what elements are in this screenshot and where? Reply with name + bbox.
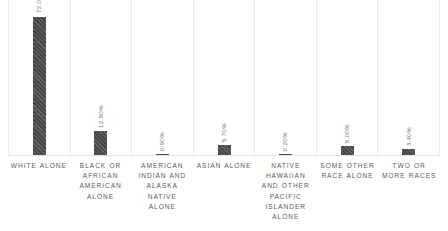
x-axis-category-labels: WHITE ALONE BLACK OR AFRICAN AMERICAN AL… [8, 161, 440, 222]
x-axis-label: TWO OR MORE RACES [378, 161, 440, 181]
bar-value-label: 0.90% [159, 132, 165, 151]
plot-area: 72.00% 12.80% 0.90% 5.70% 0.20% [8, 0, 440, 156]
x-axis-label: AMERICAN INDIAN AND ALASKA NATIVE ALONE [131, 161, 193, 212]
x-axis-baseline [8, 155, 440, 156]
x-axis-label: SOME OTHER RACE ALONE [317, 161, 379, 181]
bar-column[interactable]: 5.70% [193, 0, 255, 156]
bar-value-label: 72.00% [36, 0, 42, 14]
bar-chart: 72.00% 12.80% 0.90% 5.70% 0.20% [0, 0, 448, 231]
bar-column[interactable]: 0.90% [131, 0, 193, 156]
x-axis-label: NATIVE HAWAIIAN AND OTHER PACIFIC ISLAND… [255, 161, 317, 222]
x-axis-label: ASIAN ALONE [193, 161, 255, 171]
bar-value-label: 12.80% [98, 105, 104, 128]
bar[interactable] [94, 131, 107, 156]
bar-column[interactable]: 12.80% [70, 0, 132, 156]
bar-value-label: 0.20% [282, 132, 288, 151]
bar[interactable] [33, 17, 46, 157]
bar-column[interactable]: 72.00% [8, 0, 70, 156]
bar-value-label: 5.00% [344, 124, 350, 143]
bar-column[interactable]: 3.40% [377, 0, 440, 156]
bar-value-label: 5.70% [221, 123, 227, 142]
bar-column[interactable]: 5.00% [316, 0, 378, 156]
bar-value-label: 3.40% [406, 127, 412, 146]
x-axis-label: WHITE ALONE [8, 161, 70, 171]
bar-column[interactable]: 0.20% [254, 0, 316, 156]
x-axis-label: BLACK OR AFRICAN AMERICAN ALONE [70, 161, 132, 202]
